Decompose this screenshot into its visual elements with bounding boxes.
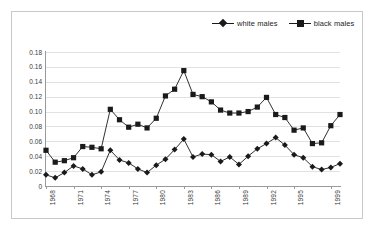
data-point-diamond [199,151,205,157]
data-point-square [89,145,94,150]
data-point-diamond [328,164,334,170]
data-point-square [264,95,269,100]
data-point-diamond [61,170,67,176]
data-point-square [163,93,168,98]
data-point-square [135,122,140,127]
data-point-square [126,125,131,130]
data-point-diamond [218,158,224,164]
data-point-square [144,125,149,130]
data-point-square [218,107,223,112]
data-point-square [200,94,205,99]
data-point-square [80,144,85,149]
data-point-square [181,68,186,73]
data-point-diamond [190,154,196,160]
data-point-diamond [208,152,214,158]
data-point-square [282,115,287,120]
data-point-square [301,125,306,130]
data-point-square [154,116,159,121]
data-point-square [108,107,113,112]
data-point-square [227,110,232,115]
data-point-diamond [89,172,95,178]
data-point-diamond [71,163,77,169]
data-point-square [246,109,251,114]
data-point-diamond [43,172,49,178]
data-point-square [255,104,260,109]
data-point-square [236,110,241,115]
data-point-square [209,99,214,104]
data-point-square [319,140,324,145]
data-point-square [43,148,48,153]
data-point-square [310,141,315,146]
data-point-diamond [264,141,270,147]
data-point-square [328,123,333,128]
data-point-square [117,117,122,122]
data-point-diamond [52,175,58,181]
data-point-diamond [126,160,132,166]
data-point-diamond [337,161,343,167]
plot-container: 00.020.040.060.080.100.120.140.160.18 19… [0,0,381,233]
data-point-square [172,87,177,92]
data-point-square [62,158,67,163]
data-point-square [291,128,296,133]
data-point-square [273,112,278,117]
data-point-square [190,92,195,97]
data-point-diamond [319,167,325,173]
data-point-square [71,155,76,160]
data-point-diamond [135,166,141,172]
data-point-square [337,112,342,117]
chart-series-layer [0,0,381,233]
data-point-square [53,160,58,165]
data-point-square [99,146,104,151]
data-point-diamond [98,169,104,175]
data-point-diamond [80,166,86,172]
chart-figure: white males black males 00.020.040.060.0… [0,0,381,233]
